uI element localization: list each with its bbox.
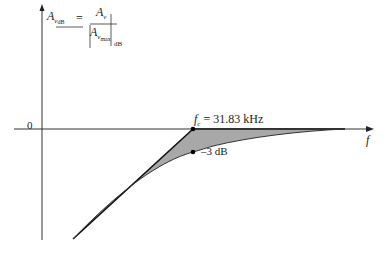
y-axis-label: AvdB bbox=[47, 10, 64, 25]
x-axis-arrow-icon bbox=[366, 126, 374, 132]
den-sub2: max bbox=[100, 36, 110, 42]
y-axis-arrow-icon bbox=[40, 4, 45, 11]
minus-3db-label: –3 dB bbox=[201, 146, 228, 157]
fc-value: = 31.83 kHz bbox=[203, 112, 263, 126]
fc-sub: c bbox=[197, 120, 200, 128]
corner-frequency-label: fc = 31.83 kHz bbox=[194, 113, 263, 128]
origin-label: 0 bbox=[27, 120, 33, 131]
lhs-sub2: dB bbox=[57, 19, 64, 25]
fraction-numerator: Av bbox=[96, 6, 106, 21]
equals-sign: = bbox=[76, 12, 83, 24]
eval-sub: dB bbox=[114, 41, 122, 48]
x-axis-label: f bbox=[366, 134, 369, 146]
num-sub: v bbox=[103, 13, 106, 21]
minus-3db-point bbox=[191, 150, 196, 155]
fraction-denominator: Avmax bbox=[90, 26, 111, 42]
